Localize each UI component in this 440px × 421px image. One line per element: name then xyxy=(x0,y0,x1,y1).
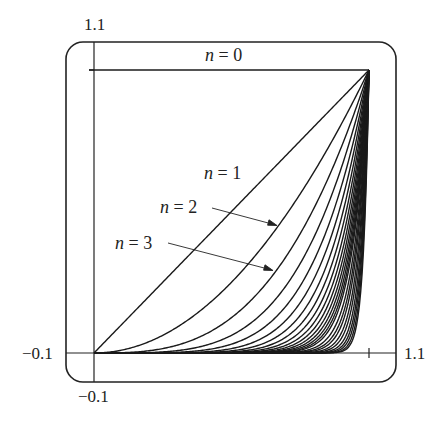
label-n3-rest: = 3 xyxy=(124,233,152,253)
curves-group xyxy=(89,70,369,353)
arrowhead-n2 xyxy=(268,220,277,226)
arrowhead-n3 xyxy=(264,265,273,271)
label-n0: n = 0 xyxy=(205,46,242,64)
label-n3-var: n xyxy=(115,233,124,253)
y-max-label: 1.1 xyxy=(84,16,105,33)
label-n3: n = 3 xyxy=(115,234,152,252)
label-n0-rest: = 0 xyxy=(214,45,242,65)
y-min-label: −0.1 xyxy=(22,345,53,362)
label-n1: n = 1 xyxy=(204,164,241,182)
curve-n1 xyxy=(94,70,369,353)
label-n2-var: n xyxy=(160,197,169,217)
label-n1-rest: = 1 xyxy=(213,163,241,183)
label-n1-var: n xyxy=(204,163,213,183)
x-min-label: −0.1 xyxy=(78,388,109,405)
x-max-label: 1.1 xyxy=(404,345,425,362)
label-n2-rest: = 2 xyxy=(169,197,197,217)
arrow-n3 xyxy=(168,243,268,269)
annotation-arrows xyxy=(168,208,277,271)
label-n2: n = 2 xyxy=(160,198,197,216)
label-n0-var: n xyxy=(205,45,214,65)
